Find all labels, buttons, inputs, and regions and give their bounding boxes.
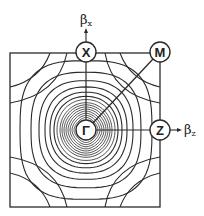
svg-text:Γ: Γ bbox=[82, 123, 90, 138]
point-m: M bbox=[150, 42, 170, 62]
beta-x-label: βx bbox=[80, 12, 93, 28]
svg-text:Z: Z bbox=[156, 123, 164, 138]
beta-z-arrowhead-icon bbox=[177, 128, 182, 132]
point-gamma: Γ bbox=[76, 120, 96, 140]
point-z: Z bbox=[150, 120, 170, 140]
gamma-m-line bbox=[93, 59, 153, 123]
beta-x-arrowhead-icon bbox=[84, 28, 88, 33]
svg-text:M: M bbox=[155, 45, 166, 60]
contour-diagram: βx βz X M Γ Z bbox=[0, 0, 204, 216]
svg-text:X: X bbox=[82, 45, 91, 60]
beta-z-label: βz bbox=[184, 122, 196, 138]
point-x: X bbox=[76, 42, 96, 62]
